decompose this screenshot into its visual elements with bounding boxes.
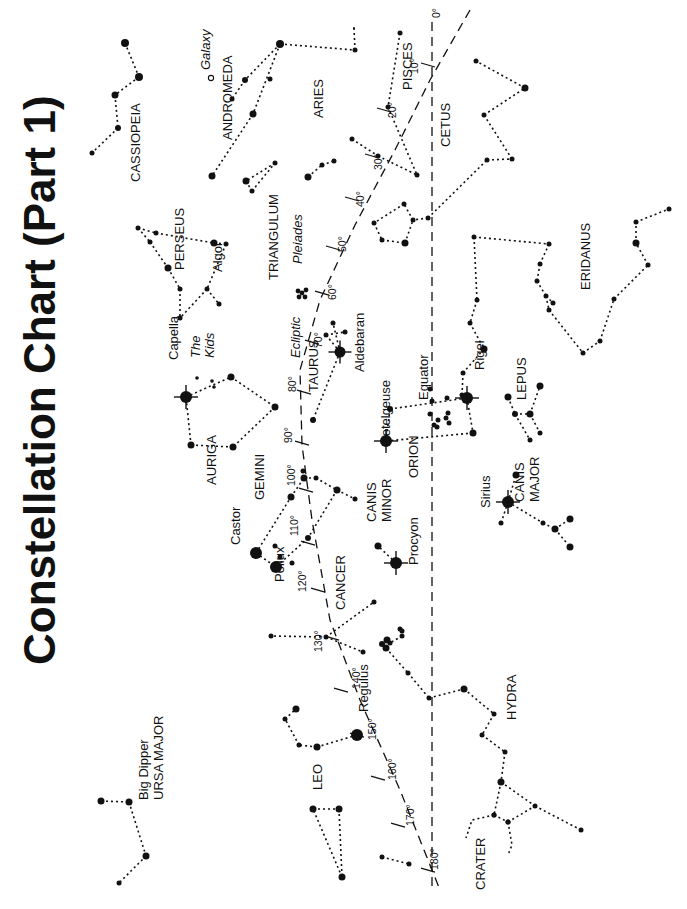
star-icon bbox=[334, 487, 341, 494]
star-icon bbox=[446, 411, 451, 416]
star-icon bbox=[445, 396, 450, 401]
constellation-line bbox=[115, 77, 139, 95]
star-name-label: Aldebaran bbox=[352, 313, 367, 372]
star-icon bbox=[310, 806, 317, 813]
star-icon bbox=[427, 696, 432, 701]
star-icon bbox=[273, 161, 278, 166]
constellation-line bbox=[530, 386, 540, 414]
constellation-line bbox=[245, 44, 280, 80]
star-icon bbox=[535, 279, 540, 284]
constellation-leo bbox=[285, 709, 409, 877]
ecliptic-degree-label: 180° bbox=[428, 848, 440, 870]
constellation-label: LEPUS bbox=[514, 357, 529, 400]
star-icon bbox=[361, 650, 366, 655]
star-icon bbox=[485, 158, 490, 163]
constellation-line bbox=[482, 714, 494, 735]
constellation-line bbox=[207, 289, 219, 304]
constellation-label: PERSEUS bbox=[172, 208, 187, 270]
star-icon bbox=[461, 371, 466, 376]
ecliptic-degree-tick bbox=[299, 488, 313, 492]
constellation-label: URSA MAJOR bbox=[151, 715, 166, 800]
star-icon bbox=[314, 476, 319, 481]
star-icon bbox=[380, 238, 385, 243]
star-icon bbox=[209, 173, 216, 180]
constellation-line bbox=[508, 502, 543, 523]
constellation-line bbox=[537, 281, 546, 296]
star-icon bbox=[533, 804, 538, 809]
star-icon bbox=[310, 417, 316, 423]
star-icon bbox=[143, 853, 150, 860]
constellation-line bbox=[484, 88, 525, 115]
star-icon bbox=[383, 645, 390, 652]
star-icon bbox=[343, 330, 348, 335]
star-icon bbox=[353, 497, 358, 502]
ecliptic-degree-label: 150° bbox=[366, 718, 378, 740]
star-icon bbox=[503, 750, 508, 755]
star-icon bbox=[538, 262, 543, 267]
equator-label: Equator bbox=[416, 354, 431, 400]
ecliptic-degree-label: 170° bbox=[404, 804, 416, 826]
star-icon bbox=[230, 444, 237, 451]
star-icon bbox=[290, 561, 295, 566]
constellation-line bbox=[233, 407, 275, 447]
ecliptic-degree-tick bbox=[391, 823, 405, 827]
constellation-line bbox=[354, 28, 355, 50]
ecliptic-degree-label: 160° bbox=[386, 758, 398, 780]
star-icon bbox=[293, 706, 300, 713]
constellation-line bbox=[540, 244, 549, 264]
star-icon bbox=[353, 27, 355, 29]
page-title: Constellation Chart (Part 1) bbox=[15, 95, 64, 665]
star-name-label: Pollux bbox=[272, 546, 287, 582]
constellation-label: ERIDANUS bbox=[578, 222, 593, 290]
constellation-line bbox=[636, 209, 669, 222]
star-icon bbox=[272, 404, 279, 411]
galaxy-label: Galaxy bbox=[198, 28, 213, 70]
star-icon bbox=[475, 298, 480, 303]
ecliptic-degree-tick bbox=[311, 588, 325, 592]
star-icon bbox=[538, 431, 543, 436]
star-icon bbox=[372, 600, 377, 605]
constellation-line bbox=[508, 806, 535, 822]
ecliptic-degree-label: 20° bbox=[386, 102, 398, 118]
star-icon bbox=[90, 151, 95, 156]
star-icon bbox=[634, 220, 639, 225]
star-icon bbox=[646, 263, 651, 268]
star-icon bbox=[402, 240, 409, 247]
constellation-line bbox=[186, 397, 191, 445]
constellation-label: CANCER bbox=[333, 555, 348, 610]
star-icon bbox=[301, 475, 308, 482]
star-icon bbox=[499, 521, 504, 526]
constellation-label: MAJOR bbox=[527, 457, 542, 503]
constellation-label: CANIS bbox=[512, 462, 527, 502]
star-icon bbox=[276, 40, 284, 48]
ecliptic-degree-label: 120° bbox=[296, 570, 308, 592]
constellation-triangulum bbox=[246, 163, 275, 191]
star-icon bbox=[436, 418, 441, 423]
star-icon bbox=[598, 339, 603, 344]
constellation-line bbox=[129, 802, 146, 856]
star-name-label: Procyon bbox=[406, 517, 421, 565]
star-icon bbox=[415, 173, 420, 178]
star-icon bbox=[468, 321, 473, 326]
star-icon bbox=[527, 411, 534, 418]
star-icon bbox=[406, 671, 411, 676]
constellation-line bbox=[501, 752, 505, 782]
star-icon bbox=[268, 77, 273, 82]
constellation-line bbox=[405, 220, 413, 243]
star-icon bbox=[492, 813, 497, 818]
star-icon bbox=[339, 874, 346, 881]
ecliptic-degree-label: 50° bbox=[336, 236, 348, 252]
constellation-line bbox=[614, 265, 648, 299]
constellation-line bbox=[482, 735, 505, 752]
star-icon bbox=[612, 297, 617, 302]
chart-title: Constellation Chart (Part 1) bbox=[15, 95, 64, 665]
star-icon bbox=[398, 31, 403, 36]
ecliptic-degree-label: 110° bbox=[288, 515, 300, 536]
star-icon bbox=[243, 178, 250, 185]
constellation-label: ARIES bbox=[311, 79, 326, 118]
star-name-label: Castor bbox=[228, 506, 243, 545]
ecliptic-degree-label: 80° bbox=[286, 376, 298, 392]
star-icon bbox=[528, 438, 533, 443]
star-icon bbox=[136, 226, 141, 231]
star-name-label: Regulus bbox=[356, 664, 371, 712]
